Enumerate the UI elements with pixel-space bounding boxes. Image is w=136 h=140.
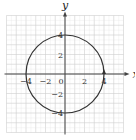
y-tick-label: 2: [58, 51, 63, 60]
x-tick-label: −2: [40, 77, 52, 86]
y-tick-label: −4: [51, 109, 63, 118]
orientation-arrow-icon: [102, 69, 106, 74]
x-tick-label: 4: [101, 77, 106, 86]
y-axis-arrow-icon: [63, 12, 67, 17]
y-axis-label: y: [61, 0, 69, 12]
y-tick-label: −2: [51, 90, 63, 99]
x-axis-label: x: [133, 68, 136, 81]
x-axis-arrow-icon: [125, 72, 130, 76]
x-tick-label: 2: [82, 77, 87, 86]
y-tick-label: 4: [58, 31, 63, 40]
x-tick-label: 0: [58, 77, 63, 86]
circle-graph: −4−202442−2−4 x y: [0, 0, 135, 140]
x-tick-label: −4: [20, 77, 32, 86]
